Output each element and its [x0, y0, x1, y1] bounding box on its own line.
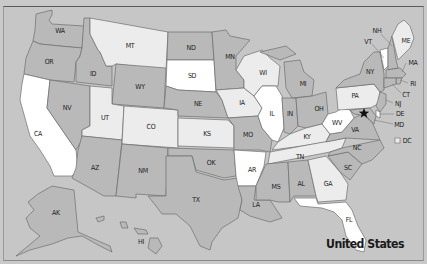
label-ms: MS [272, 183, 281, 191]
label-hi: HI [138, 238, 144, 246]
label-id: ID [90, 70, 97, 78]
label-vt: VT [364, 38, 372, 46]
label-co: CO [147, 123, 156, 131]
label-tn: TN [295, 153, 305, 161]
label-mo: MO [243, 131, 253, 139]
label-ut: UT [101, 114, 109, 122]
label-ak: AK [52, 209, 61, 217]
label-ks: KS [203, 130, 211, 138]
label-az: AZ [91, 164, 100, 172]
label-ok: OK [207, 159, 217, 167]
label-wa: WA [55, 27, 66, 35]
label-nd: ND [187, 44, 196, 52]
state-ri[interactable] [396, 78, 402, 84]
label-ny: NY [366, 68, 374, 76]
label-wy: WY [135, 83, 145, 91]
label-nv: NV [63, 104, 72, 112]
label-me: ME [402, 37, 411, 45]
label-de: DE [396, 110, 405, 118]
label-ar: AR [248, 166, 257, 174]
label-ky: KY [303, 133, 311, 141]
label-ri: RI [410, 80, 416, 88]
label-la: LA [252, 201, 260, 209]
label-ct: CT [402, 91, 410, 99]
label-sc: SC [344, 164, 353, 172]
label-ca: CA [34, 130, 43, 138]
label-or: OR [45, 58, 55, 66]
label-il: IL [270, 110, 276, 118]
label-ma: MA [408, 59, 418, 67]
label-in: IN [287, 110, 294, 118]
label-md: MD [394, 121, 404, 129]
label-ga: GA [324, 180, 334, 188]
label-wi: WI [259, 69, 267, 77]
label-ne: NE [194, 100, 202, 108]
label-pa: PA [351, 92, 359, 100]
label-mn: MN [225, 53, 235, 61]
label-nj: NJ [395, 100, 401, 108]
map-frame: WA OR CA ID NV MT WY UT AZ CO NM ND SD N… [0, 0, 427, 264]
label-al: AL [297, 180, 305, 188]
label-ia: IA [239, 99, 246, 107]
label-mi: MI [300, 80, 307, 88]
dc-legend-box [395, 138, 400, 143]
label-sd: SD [188, 72, 197, 80]
label-dc: DC [403, 137, 413, 145]
label-nh: NH [373, 27, 382, 35]
label-mt: MT [126, 42, 135, 50]
label-oh: OH [314, 105, 324, 113]
label-va: VA [351, 126, 360, 134]
label-tx: TX [191, 196, 201, 204]
label-wv: WV [332, 119, 343, 127]
label-fl: FL [346, 216, 353, 224]
map-title: United States [326, 236, 404, 251]
us-map: WA OR CA ID NV MT WY UT AZ CO NM ND SD N… [0, 0, 427, 264]
label-nm: NM [138, 167, 148, 175]
label-nc: NC [353, 144, 362, 152]
